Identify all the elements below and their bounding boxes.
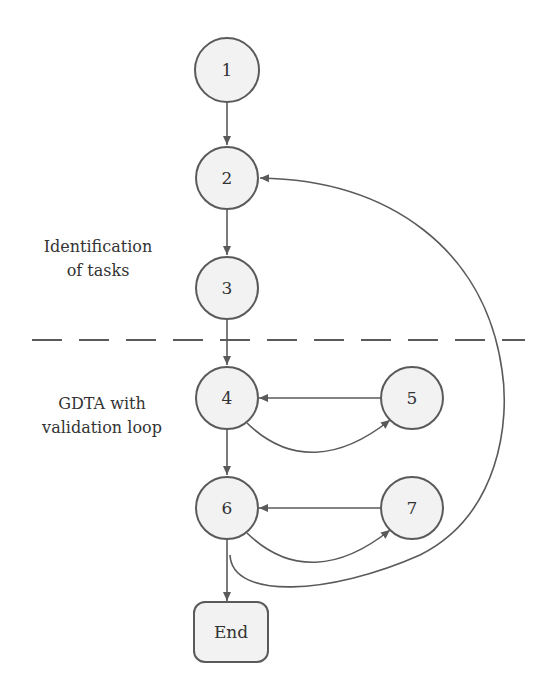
node-2-label: 2 bbox=[222, 168, 233, 188]
node-end-label: End bbox=[214, 622, 248, 642]
node-3[interactable]: 3 bbox=[196, 257, 258, 319]
node-5-label: 5 bbox=[407, 388, 418, 408]
edge-6-7-curve bbox=[247, 530, 390, 562]
section-label-gdta-line2: validation loop bbox=[41, 418, 162, 437]
node-3-label: 3 bbox=[222, 278, 233, 298]
node-1[interactable]: 1 bbox=[195, 38, 259, 102]
node-2[interactable]: 2 bbox=[196, 147, 258, 209]
flowchart-diagram: 1 2 3 4 5 6 7 End Identification of task… bbox=[0, 0, 551, 695]
node-6[interactable]: 6 bbox=[196, 477, 258, 539]
node-1-label: 1 bbox=[222, 60, 233, 80]
node-6-label: 6 bbox=[222, 498, 233, 518]
node-5[interactable]: 5 bbox=[381, 367, 443, 429]
node-end[interactable]: End bbox=[194, 602, 268, 662]
node-4-label: 4 bbox=[222, 388, 233, 408]
edge-4-5-curve bbox=[247, 420, 390, 452]
node-4[interactable]: 4 bbox=[196, 367, 258, 429]
section-label-gdta: GDTA with validation loop bbox=[41, 394, 162, 437]
section-label-identification: Identification of tasks bbox=[44, 237, 153, 280]
node-7[interactable]: 7 bbox=[381, 477, 443, 539]
node-7-label: 7 bbox=[407, 498, 418, 518]
section-label-identification-line1: Identification bbox=[44, 237, 153, 256]
section-label-identification-line2: of tasks bbox=[67, 261, 130, 280]
edge-6-2-loop bbox=[230, 178, 504, 587]
section-label-gdta-line1: GDTA with bbox=[58, 394, 146, 413]
